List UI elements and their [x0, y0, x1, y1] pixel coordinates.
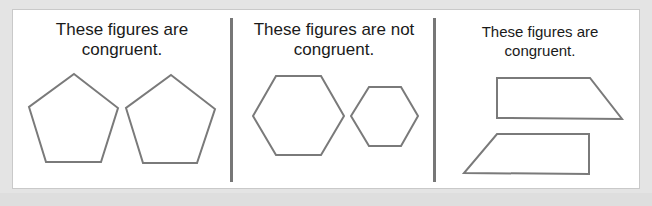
pentagon-2 — [126, 75, 215, 163]
trapezoid-1 — [497, 78, 622, 119]
hexagon-large — [253, 76, 344, 155]
shapes-canvas — [0, 0, 652, 206]
hexagon-small — [351, 87, 418, 146]
trapezoid-2 — [464, 134, 589, 174]
pentagon-1 — [29, 74, 118, 162]
